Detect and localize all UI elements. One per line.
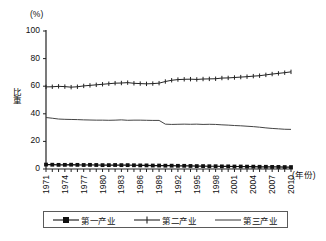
line-chart: (%) 比重 (年份) 100806040200 197119741977198… (0, 0, 326, 241)
marker-square (132, 163, 136, 167)
series-line-2 (46, 72, 291, 87)
y-tick-label: 40 (14, 108, 40, 118)
marker-square (107, 163, 111, 167)
legend-label-series3: 第三产业 (243, 214, 278, 226)
plot-area (0, 0, 326, 241)
legend-item-series3: 第三产业 (215, 214, 278, 226)
marker-square (251, 165, 255, 169)
y-axis-title: 比重 (10, 88, 22, 104)
y-tick-label: 20 (14, 135, 40, 145)
marker-square (50, 163, 54, 167)
marker-square (226, 164, 230, 168)
marker-square (245, 165, 249, 169)
marker-square (101, 163, 105, 167)
y-tick-label: 100 (14, 25, 40, 35)
marker-square (170, 164, 174, 168)
y-tick-label: 0 (14, 163, 40, 173)
legend-label-series1: 第一产业 (81, 214, 116, 226)
x-tick-label: 1995 (192, 175, 202, 194)
marker-square (57, 163, 61, 167)
marker-square (126, 163, 130, 167)
marker-square (88, 163, 92, 167)
marker-square (157, 164, 161, 168)
x-tick-label: 1986 (135, 175, 145, 194)
legend: 第一产业 第二产业 第三产业 (43, 211, 288, 228)
marker-square (283, 165, 287, 169)
marker-square (94, 163, 98, 167)
series-line-3 (46, 118, 291, 130)
marker-square (270, 165, 274, 169)
marker-square (214, 164, 218, 168)
x-tick-label: 1983 (116, 175, 126, 194)
marker-square (138, 164, 142, 168)
marker-square (44, 163, 48, 167)
marker-square (277, 165, 281, 169)
marker-square (113, 163, 117, 167)
x-tick-label: 1980 (98, 175, 108, 194)
legend-label-series2: 第二产业 (162, 214, 197, 226)
marker-square (220, 164, 224, 168)
marker-square (151, 164, 155, 168)
x-tick-label: 1977 (79, 175, 89, 194)
y-tick-label: 60 (14, 80, 40, 90)
marker-square (119, 163, 123, 167)
legend-swatch-square-line (53, 215, 79, 225)
marker-square (176, 164, 180, 168)
marker-square (163, 164, 167, 168)
legend-swatch-plus-line (134, 215, 160, 225)
x-tick-label: 1998 (211, 175, 221, 194)
x-tick-label: 2004 (248, 175, 258, 194)
legend-item-series2: 第二产业 (134, 214, 197, 226)
x-tick-label: 2007 (267, 175, 277, 194)
marker-square (201, 164, 205, 168)
marker-square (233, 165, 237, 169)
marker-square (207, 164, 211, 168)
x-tick-label: 1971 (41, 175, 51, 194)
legend-item-series1: 第一产业 (53, 214, 116, 226)
marker-square (69, 163, 73, 167)
marker-square (63, 163, 67, 167)
x-tick-label: 1974 (60, 175, 70, 194)
legend-swatch-plain-line (215, 215, 241, 225)
x-tick-label: 1992 (173, 175, 183, 194)
marker-square (264, 165, 268, 169)
marker-square (189, 164, 193, 168)
marker-square (195, 164, 199, 168)
marker-square (182, 164, 186, 168)
y-axis-unit-label: (%) (30, 9, 43, 19)
marker-square (145, 164, 149, 168)
y-tick-label: 80 (14, 53, 40, 63)
x-tick-label: 2001 (229, 175, 239, 194)
x-tick-label: 1989 (154, 175, 164, 194)
marker-square (76, 163, 80, 167)
marker-square (258, 165, 262, 169)
x-tick-label: 2010 (286, 175, 296, 194)
marker-square (82, 163, 86, 167)
marker-square (239, 165, 243, 169)
